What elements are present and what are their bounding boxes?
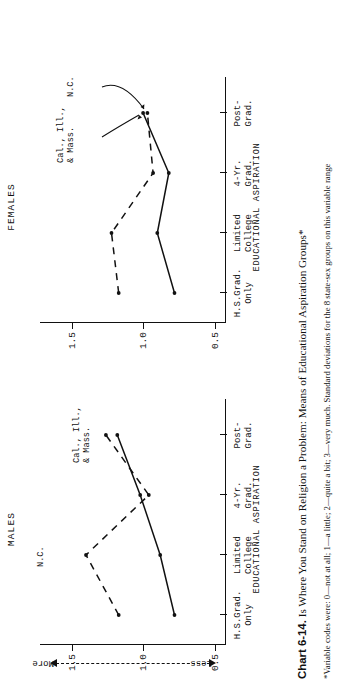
y-tick-label-0.5: 0.5: [209, 654, 220, 671]
panel-title-males: MALES: [6, 379, 17, 679]
data-point: [167, 171, 171, 175]
y-tick-1.5: [72, 322, 73, 329]
y-tick-label-0.5: 0.5: [209, 332, 220, 349]
x-axis-caption-males: EDUCATIONAL ASPIRATION: [252, 379, 262, 679]
annotation-nc-males: N.C.: [36, 546, 46, 567]
series-line-nc-females: [112, 113, 154, 293]
data-point: [110, 231, 114, 235]
leader-arrow-nc-icon: [102, 85, 144, 109]
y-tick-label-1.0: 1.0: [138, 654, 149, 671]
data-point: [115, 433, 119, 437]
data-point: [146, 111, 150, 115]
annotation-cal-ill-mass-females: Cal., Ill., & Mass.: [56, 106, 76, 163]
figure-footnote: *Variable codes were: 0—not at all; 1—a …: [322, 7, 333, 679]
data-point: [117, 613, 121, 617]
rotated-page-content: MALES More Less 0.5 1.0 1.5 H.S.Grad. On…: [0, 0, 342, 687]
x-axis-caption-females: EDUCATIONAL ASPIRATION: [252, 57, 262, 357]
plot-area-males: 0.5 1.0 1.5 H.S.Grad. Only Limited Colle…: [40, 399, 226, 645]
y-tick-label-1.0: 1.0: [138, 332, 149, 349]
chart-panel-females: FEMALES 0.5 1.0 1.5 H.S.Grad. Only Limit…: [0, 57, 290, 357]
y-tick-1.5: [72, 644, 73, 651]
y-tick-label-1.5: 1.5: [66, 332, 77, 349]
data-point: [173, 613, 177, 617]
data-point: [158, 553, 162, 557]
y-tick-0.5: [215, 644, 216, 651]
direction-dashed-line: [56, 663, 210, 664]
figure-caption: Chart 6-14. Is Where You Stand on Religi…: [296, 7, 309, 679]
figure-caption-text: Is Where You Stand on Religion a Problem…: [296, 229, 308, 617]
data-point: [104, 433, 108, 437]
data-point: [147, 493, 151, 497]
series-line-cal-ill-mass-females: [143, 113, 174, 293]
data-point: [84, 553, 88, 557]
data-point: [151, 171, 155, 175]
chart-panel-males: MALES More Less 0.5 1.0 1.5 H.S.Grad. On…: [0, 379, 290, 679]
more-label: More: [32, 658, 54, 668]
y-tick-0.5: [215, 322, 216, 329]
series-lines-males: [40, 399, 226, 645]
y-tick-label-1.5: 1.5: [66, 654, 77, 671]
annotation-cal-ill-mass-males: Cal., Ill., & Mass.: [72, 406, 92, 463]
data-point: [117, 291, 121, 295]
figure-caption-number: Chart 6-14.: [296, 620, 308, 679]
annotation-nc-females: N.C.: [66, 76, 76, 97]
plot-area-females: 0.5 1.0 1.5 H.S.Grad. Only Limited Colle…: [40, 77, 226, 323]
panel-title-females: FEMALES: [6, 57, 17, 357]
y-tick-1.0: [143, 322, 144, 329]
figure-page: MALES More Less 0.5 1.0 1.5 H.S.Grad. On…: [0, 0, 342, 687]
leader-arrow-cal-ill-mass-icon: [102, 115, 139, 137]
data-point: [155, 231, 159, 235]
data-point: [173, 291, 177, 295]
series-line-nc-males: [86, 435, 149, 615]
data-point: [138, 493, 142, 497]
y-tick-1.0: [143, 644, 144, 651]
data-point: [141, 111, 145, 115]
